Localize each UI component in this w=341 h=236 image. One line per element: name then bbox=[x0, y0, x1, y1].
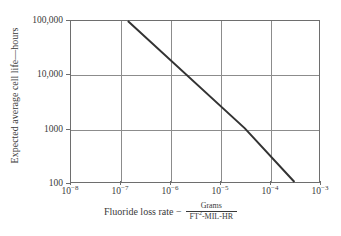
chart-figure: Expected average cell life—hours 100,000… bbox=[0, 0, 341, 236]
x-axis-tick-mark bbox=[120, 181, 121, 185]
x-tick-base: 10 bbox=[62, 186, 72, 196]
x-tick-base: 10 bbox=[212, 186, 222, 196]
fraction-denominator-rest: -MIL-HR bbox=[202, 212, 233, 221]
x-axis-tick-mark bbox=[270, 181, 271, 185]
x-axis-tick-mark bbox=[320, 181, 321, 185]
x-tick-exponent: −3 bbox=[321, 184, 328, 192]
y-axis-tick-label: 1000 bbox=[44, 124, 63, 134]
x-axis-tick-mark bbox=[170, 181, 171, 185]
x-tick-exponent: −5 bbox=[221, 184, 228, 192]
x-axis-tick-label: 10−3 bbox=[312, 185, 329, 197]
y-axis-tick-label: 10,000 bbox=[37, 69, 63, 79]
x-tick-base: 10 bbox=[112, 186, 122, 196]
plot-area bbox=[70, 20, 320, 183]
y-axis-tick-label: 100,000 bbox=[32, 15, 63, 25]
x-axis-tick-mark bbox=[70, 181, 71, 185]
fraction-denominator-base: FT bbox=[190, 212, 199, 221]
x-axis-tick-label: 10−5 bbox=[212, 185, 229, 197]
x-tick-exponent: −4 bbox=[271, 184, 278, 192]
x-axis-tick-labels: 10−810−710−610−510−410−3 bbox=[0, 185, 341, 201]
x-axis-title-prefix: Fluoride loss rate − bbox=[104, 206, 182, 217]
x-axis-tick-label: 10−8 bbox=[62, 185, 79, 197]
x-axis-tick-mark bbox=[220, 181, 221, 185]
x-tick-exponent: −7 bbox=[121, 184, 128, 192]
x-tick-base: 10 bbox=[312, 186, 322, 196]
x-axis-tick-label: 10−4 bbox=[262, 185, 279, 197]
x-axis-title: Fluoride loss rate − Grams FT2-MIL-HR bbox=[0, 202, 341, 221]
x-tick-base: 10 bbox=[162, 186, 172, 196]
series-line-expected-cell-life bbox=[128, 21, 295, 182]
x-tick-base: 10 bbox=[262, 186, 272, 196]
x-axis-tick-label: 10−6 bbox=[162, 185, 179, 197]
fraction-denominator: FT2-MIL-HR bbox=[186, 212, 237, 221]
x-tick-exponent: −6 bbox=[171, 184, 178, 192]
x-axis-tick-label: 10−7 bbox=[112, 185, 129, 197]
x-tick-exponent: −8 bbox=[71, 184, 78, 192]
data-line bbox=[71, 21, 319, 182]
x-axis-title-fraction: Grams FT2-MIL-HR bbox=[186, 202, 237, 221]
